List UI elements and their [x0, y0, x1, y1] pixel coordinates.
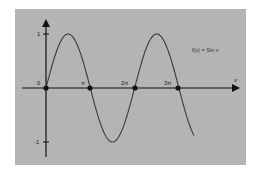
point-2pi: [132, 85, 137, 90]
point-3pi: [175, 85, 180, 90]
label-y-neg1: -1: [34, 139, 39, 145]
chart-svg: [0, 0, 259, 174]
point-origin: [43, 85, 48, 90]
label-2pi: 2π: [121, 80, 128, 86]
y-axis-arrow-icon: [42, 19, 50, 27]
label-pi: π: [81, 80, 85, 86]
label-x-axis: x: [234, 77, 237, 83]
label-y-1: 1: [37, 31, 40, 37]
label-3pi: 3π: [164, 80, 171, 86]
label-origin: 0: [37, 80, 40, 86]
point-pi: [87, 85, 92, 90]
x-axis-arrow-icon: [232, 84, 240, 92]
function-label: f(x) = Sin x: [192, 48, 218, 54]
